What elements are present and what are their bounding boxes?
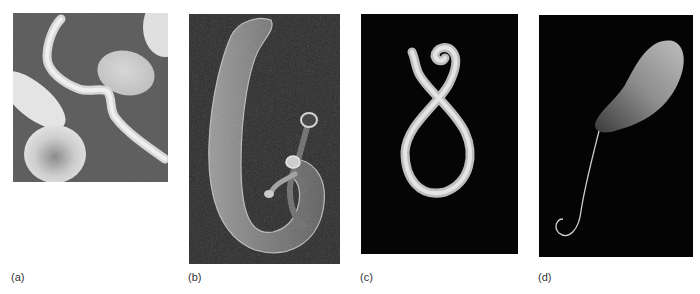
micrograph-panel-b <box>189 14 340 264</box>
panel-label-c: (c) <box>360 271 373 283</box>
schistosome-micrograph <box>189 14 340 264</box>
micrograph-panel-a <box>13 13 168 182</box>
panel-label-a: (a) <box>11 271 24 283</box>
micrograph-panel-d <box>539 15 693 257</box>
panel-label-b: (b) <box>188 271 201 283</box>
micrograph-panel-c <box>361 14 518 254</box>
roundworm-micrograph <box>361 14 518 254</box>
trypanosome-micrograph <box>13 13 168 182</box>
flagellate-micrograph <box>539 15 693 257</box>
panel-label-d: (d) <box>538 271 551 283</box>
